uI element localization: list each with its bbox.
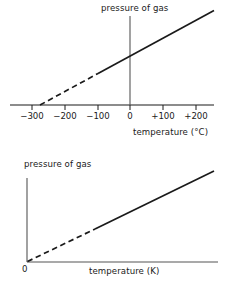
celsius-y-axis-label: pressure of gas: [101, 3, 168, 13]
celsius-extrapolation-dashed-line: [40, 74, 98, 106]
celsius-xtick-label-minus300: −300: [20, 111, 44, 121]
kelvin-extrapolation-dashed-line: [28, 229, 96, 262]
celsius-tick-marks: [32, 105, 196, 110]
kelvin-y-axis-label: pressure of gas: [24, 159, 91, 169]
celsius-xtick-label-minus100: −100: [86, 111, 110, 121]
celsius-xtick-label-plus200: +200: [184, 111, 208, 121]
kelvin-x-axis-label: temperature (K): [89, 266, 159, 276]
celsius-data-solid-line: [98, 11, 214, 74]
celsius-x-axis-label: temperature (°C): [133, 127, 208, 137]
pressure-temperature-figure: pressure of gas temperature (°C) −300 −2…: [0, 0, 228, 281]
figure-canvas: [0, 0, 228, 281]
celsius-xtick-label-minus200: −200: [53, 111, 77, 121]
celsius-xtick-label-plus100: +100: [151, 111, 175, 121]
kelvin-data-solid-line: [95, 171, 214, 229]
kelvin-origin-label: 0: [22, 264, 28, 274]
celsius-xtick-label-zero: 0: [127, 111, 132, 121]
celsius-chart-group: [10, 11, 214, 111]
kelvin-chart-group: [27, 171, 218, 262]
